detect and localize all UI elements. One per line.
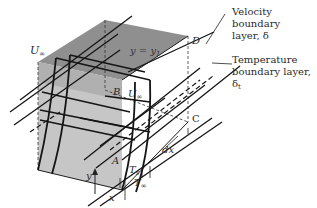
dx-label: dx bbox=[162, 145, 174, 155]
point-a-label: A bbox=[112, 156, 119, 166]
top-plane-label: y = y1 bbox=[130, 46, 161, 58]
point-b-label: B bbox=[113, 87, 120, 97]
x-axis-label: x bbox=[109, 193, 115, 203]
callout-leaders bbox=[206, 14, 232, 64]
point-d-label: D bbox=[192, 36, 200, 46]
velocity-bl-line2: layer, δ bbox=[232, 30, 317, 42]
velocity-bl-line1: Velocity boundary bbox=[232, 6, 317, 30]
y-axis-label: y bbox=[86, 171, 92, 181]
temperature-bl-line2: boundary layer, δt bbox=[232, 66, 317, 93]
t-s-label: Ts bbox=[129, 165, 139, 177]
u-inf-mid-label: U∞ bbox=[128, 89, 142, 101]
temperature-bl-line1: Temperature bbox=[232, 54, 317, 66]
u-inf-left-label: U∞ bbox=[30, 45, 45, 58]
velocity-bl-callout: Velocity boundary layer, δ bbox=[232, 6, 317, 42]
t-inf-label: T∞ bbox=[134, 178, 147, 190]
temperature-bl-callout: Temperature boundary layer, δt bbox=[232, 54, 317, 93]
point-c-label: C bbox=[192, 114, 200, 124]
